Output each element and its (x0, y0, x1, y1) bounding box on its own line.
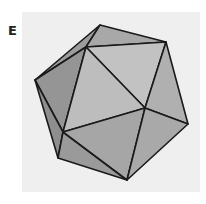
icosahedron-figure (0, 0, 206, 204)
icosahedron-faces (35, 25, 188, 180)
